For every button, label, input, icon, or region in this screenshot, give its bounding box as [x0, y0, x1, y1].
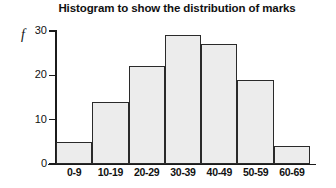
histogram-bar [274, 146, 310, 164]
y-axis-tick [49, 75, 55, 76]
y-axis-tick [49, 30, 55, 31]
chart-title: Histogram to show the distribution of ma… [0, 2, 336, 14]
histogram-bar [56, 142, 92, 164]
x-axis-tick-label: 40-49 [201, 167, 237, 178]
x-axis-tick-label: 10-19 [92, 167, 128, 178]
histogram-bar [92, 102, 128, 164]
x-axis-tick-label: 30-39 [165, 167, 201, 178]
y-axis-tick [49, 119, 55, 120]
y-axis-tick-label: 20 [35, 69, 47, 80]
y-axis-tick [49, 163, 55, 164]
x-axis-tick-label: 50-59 [237, 167, 273, 178]
histogram-bar [129, 66, 165, 164]
x-axis-tick-label: 60-69 [274, 167, 310, 178]
x-axis-tick-label: 0-9 [56, 167, 92, 178]
y-axis-tick-label: 10 [35, 114, 47, 125]
histogram-bar [201, 44, 237, 164]
x-axis-tick-label: 20-29 [129, 167, 165, 178]
histogram-bar [237, 80, 273, 164]
y-axis-tick-label: 0 [41, 158, 47, 169]
y-axis-label: f [21, 28, 25, 42]
histogram-figure: Histogram to show the distribution of ma… [0, 0, 336, 188]
histogram-bar [165, 35, 201, 164]
y-axis-tick-label: 30 [35, 25, 47, 36]
